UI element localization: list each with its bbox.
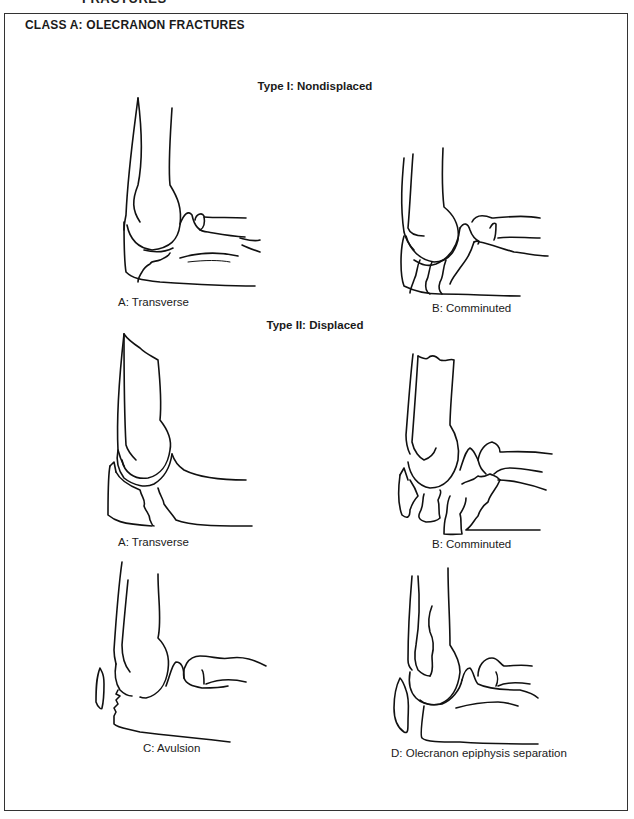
caption-type2-b: B: Comminuted bbox=[432, 538, 511, 550]
caption-type1-a: A: Transverse bbox=[118, 296, 189, 308]
class-title: CLASS A: OLECRANON FRACTURES bbox=[25, 18, 245, 32]
page-header-cropped: FRACTURES bbox=[82, 0, 167, 6]
elbow-comminuted-nondisplaced-drawing bbox=[380, 110, 580, 310]
caption-type2-d: D: Olecranon epiphysis separation bbox=[391, 747, 567, 759]
elbow-transverse-displaced-drawing bbox=[80, 330, 280, 530]
elbow-epiphysis-separation-drawing bbox=[380, 560, 600, 760]
caption-type1-b: B: Comminuted bbox=[432, 302, 511, 314]
elbow-transverse-nondisplaced-drawing bbox=[80, 90, 280, 290]
caption-type2-c: C: Avulsion bbox=[143, 742, 200, 754]
elbow-avulsion-drawing bbox=[70, 560, 300, 760]
elbow-comminuted-displaced-drawing bbox=[380, 330, 580, 540]
caption-type2-a: A: Transverse bbox=[118, 536, 189, 548]
